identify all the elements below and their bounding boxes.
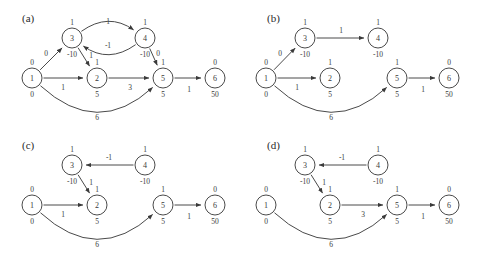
node-id-label: 2 [95,74,99,83]
node-above-label: 0 [30,58,34,67]
node-below-label: -10 [67,177,77,186]
edge-weight-label: 1 [89,51,93,60]
node-5[interactable]: 515 [153,58,173,100]
panel-d: (d)-1131610021531-1041-105156050 [256,139,459,249]
node-6[interactable]: 6050 [439,58,459,100]
node-below-label: -10 [67,50,77,59]
node-3[interactable]: 31-10 [62,145,82,187]
node-above-label: 0 [447,58,451,67]
node-3[interactable]: 31-10 [62,18,82,60]
node-1[interactable]: 100 [256,58,276,100]
graph-canvas: (a)0111-1031610021531-1041-105156050(b)0… [0,0,489,253]
edge-weight-label: -1 [339,153,345,162]
node-1[interactable]: 100 [22,58,42,100]
node-4[interactable]: 41-10 [368,18,388,60]
panel-b: (b)0111610021531-1041-105156050 [256,12,459,122]
node-below-label: 5 [161,90,165,99]
node-id-label: 5 [395,201,399,210]
node-above-label: 1 [303,18,307,27]
node-id-label: 3 [303,161,307,170]
edge-weight-label: 6 [95,113,99,122]
panel-a: (a)0111-1031610021531-1041-105156050 [22,12,225,122]
edge-weight-label: 3 [361,210,365,219]
node-5[interactable]: 515 [387,185,407,227]
nodes-group: 10021531-1041-105156050 [256,145,459,227]
node-above-label: 1 [328,185,332,194]
node-5[interactable]: 515 [153,185,173,227]
node-above-label: 1 [161,185,165,194]
edge-weight-label: 6 [329,113,333,122]
node-above-label: 0 [213,58,217,67]
edge-weight-label: 6 [329,240,333,249]
node-below-label: 0 [264,217,268,226]
nodes-group: 10021531-1041-105156050 [256,18,459,100]
edge-weight-label: 1 [295,83,299,92]
node-id-label: 5 [161,74,165,83]
node-id-label: 1 [30,74,34,83]
edge-weight-label: 3 [128,83,132,92]
node-below-label: 50 [445,90,453,99]
figure-container: (a)0111-1031610021531-1041-105156050(b)0… [0,0,489,253]
edge-weight-label: 1 [61,210,65,219]
node-6[interactable]: 6050 [205,185,225,227]
node-6[interactable]: 6050 [205,58,225,100]
node-2[interactable]: 215 [320,58,340,100]
node-above-label: 1 [70,18,74,27]
edge-weight-label: 1 [106,17,110,26]
node-above-label: 1 [143,145,147,154]
node-above-label: 1 [376,18,380,27]
node-4[interactable]: 41-10 [368,145,388,187]
node-id-label: 2 [328,201,332,210]
nodes-group: 10021531-1041-105156050 [22,145,225,227]
panel-caption: (c) [22,139,35,152]
node-3[interactable]: 31-10 [295,18,315,60]
node-above-label: 0 [264,185,268,194]
node-below-label: 5 [95,217,99,226]
node-below-label: -10 [140,50,150,59]
edge-weight-label: 0 [44,49,48,58]
node-above-label: 1 [303,145,307,154]
node-below-label: 5 [328,90,332,99]
node-below-label: 50 [211,90,219,99]
node-id-label: 6 [447,74,451,83]
node-below-label: 50 [211,217,219,226]
edge-weight-label: -1 [106,153,112,162]
node-above-label: 1 [328,58,332,67]
node-id-label: 3 [70,34,74,43]
node-above-label: 1 [161,58,165,67]
node-id-label: 1 [264,74,268,83]
edge-3-to-2 [311,175,322,193]
edge-weight-label: 1 [187,212,191,221]
panel-caption: (a) [22,12,35,25]
node-3[interactable]: 31-10 [295,145,315,187]
edge-weight-label: -1 [105,41,111,50]
node-6[interactable]: 6050 [439,185,459,227]
edge-weight-label: 0 [278,49,282,58]
edge-weight-label: 1 [339,26,343,35]
node-id-label: 1 [30,201,34,210]
panel-caption: (b) [267,12,280,25]
node-id-label: 6 [213,74,217,83]
node-below-label: 50 [445,217,453,226]
node-4[interactable]: 41-10 [135,145,155,187]
node-id-label: 2 [328,74,332,83]
node-id-label: 5 [395,74,399,83]
edge-weight-label: 1 [421,212,425,221]
node-above-label: 1 [395,58,399,67]
node-2[interactable]: 215 [87,58,107,100]
node-above-label: 1 [376,145,380,154]
node-2[interactable]: 215 [320,185,340,227]
node-5[interactable]: 515 [387,58,407,100]
node-id-label: 4 [376,34,380,43]
node-1[interactable]: 100 [256,185,276,227]
node-above-label: 0 [30,185,34,194]
node-below-label: -10 [373,50,383,59]
node-below-label: -10 [300,177,310,186]
panels-root: (a)0111-1031610021531-1041-105156050(b)0… [22,12,459,249]
node-above-label: 1 [395,185,399,194]
node-1[interactable]: 100 [22,185,42,227]
node-id-label: 4 [376,161,380,170]
node-below-label: 5 [328,217,332,226]
edge-weight-label: 1 [322,178,326,187]
node-2[interactable]: 215 [87,185,107,227]
